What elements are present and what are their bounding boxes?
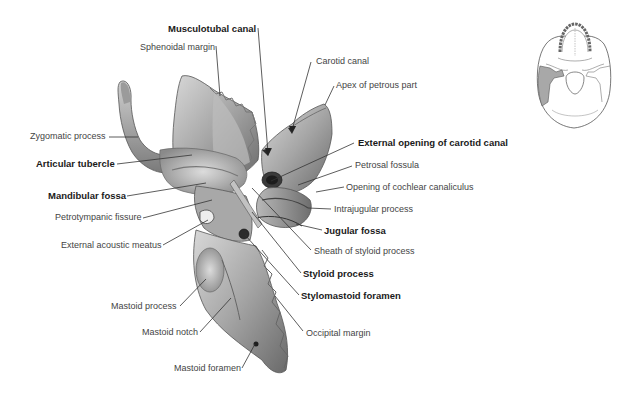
label-musculotubal-canal: Musculotubal canal xyxy=(168,23,256,34)
label-styloid-process: Styloid process xyxy=(303,268,374,279)
temporal-bone-figure: Musculotubal canal Sphenoidal margin Car… xyxy=(0,0,620,397)
label-petrosal-fossula: Petrosal fossula xyxy=(355,160,419,171)
label-mastoid-foramen: Mastoid foramen xyxy=(174,363,241,374)
label-sheath-of-styloid-process: Sheath of styloid process xyxy=(314,246,415,257)
label-mastoid-process: Mastoid process xyxy=(111,301,177,312)
leader-sphenoidal-margin xyxy=(216,46,220,96)
label-carotid-canal: Carotid canal xyxy=(316,56,369,67)
label-external-opening-of-carotid-canal: External opening of carotid canal xyxy=(358,137,508,148)
leader-musculotubal-canal xyxy=(258,28,268,153)
leader-apex-of-petrous-part xyxy=(325,86,334,105)
label-occipital-margin: Occipital margin xyxy=(306,328,371,339)
label-mastoid-notch: Mastoid notch xyxy=(142,327,198,338)
label-mandibular-fossa: Mandibular fossa xyxy=(48,190,126,201)
leader-opening-of-cochlear-canaliculus xyxy=(316,187,344,192)
label-zygomatic-process: Zygomatic process xyxy=(30,131,106,142)
label-petrotympanic-fissure: Petrotympanic fissure xyxy=(55,212,142,223)
label-articular-tubercle: Articular tubercle xyxy=(36,158,115,169)
mastoid-part-shape xyxy=(194,230,288,373)
label-stylomastoid-foramen: Stylomastoid foramen xyxy=(301,290,401,301)
label-intrajugular-process: Intrajugular process xyxy=(334,204,413,215)
label-sphenoidal-margin: Sphenoidal margin xyxy=(140,42,215,53)
leader-jugular-fossa xyxy=(296,224,322,230)
label-jugular-fossa: Jugular fossa xyxy=(324,225,386,236)
label-external-acoustic-meatus: External acoustic meatus xyxy=(61,240,162,251)
label-apex-of-petrous-part: Apex of petrous part xyxy=(336,80,417,91)
label-opening-of-cochlear-canaliculus: Opening of cochlear canaliculus xyxy=(346,182,474,193)
skull-base-inset xyxy=(537,24,610,128)
